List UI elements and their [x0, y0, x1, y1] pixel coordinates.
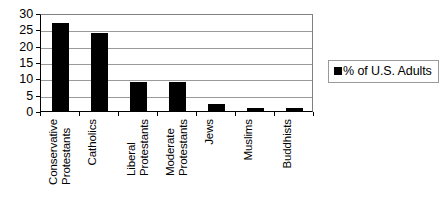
- y-axis-tick-label: 0: [26, 106, 33, 119]
- x-axis-tick-mark: [196, 112, 197, 116]
- x-axis-tick-mark: [313, 112, 314, 116]
- bar-chart: 051015202530 Conservative ProtestantsCat…: [0, 0, 446, 201]
- y-axis-tick-label: 30: [19, 8, 33, 21]
- x-axis-category-label: Jews: [203, 119, 216, 145]
- bar: [208, 104, 225, 111]
- x-axis-tick-mark: [79, 112, 80, 116]
- x-axis-category-label: Buddhists: [281, 119, 294, 169]
- x-axis-category-label: Catholics: [86, 119, 99, 165]
- bar: [130, 82, 147, 111]
- bar: [286, 108, 303, 111]
- x-axis-category-label: Moderate Protestants: [164, 119, 189, 176]
- x-axis-category-label: Liberal Protestants: [125, 119, 150, 176]
- legend: % of U.S. Adults: [328, 60, 439, 83]
- x-axis-tick-mark: [118, 112, 119, 116]
- bar: [52, 23, 69, 111]
- bar: [169, 82, 186, 111]
- y-axis: 051015202530: [0, 0, 40, 112]
- x-axis-category-label: Muslims: [242, 119, 255, 160]
- y-axis-tick-label: 25: [19, 24, 33, 37]
- y-axis-tick-label: 10: [19, 73, 33, 86]
- bar: [91, 33, 108, 111]
- bars-group: [41, 15, 312, 111]
- x-axis-tick-mark: [235, 112, 236, 116]
- x-axis: Conservative ProtestantsCatholicsLiberal…: [40, 112, 313, 201]
- y-axis-tick-label: 15: [19, 57, 33, 70]
- x-axis-category-label: Conservative Protestants: [47, 119, 72, 185]
- x-axis-tick-mark: [40, 112, 41, 116]
- x-axis-tick-mark: [274, 112, 275, 116]
- bar: [247, 108, 264, 111]
- y-axis-tick-label: 5: [26, 89, 33, 102]
- y-axis-tick-label: 20: [19, 40, 33, 53]
- x-axis-tick-mark: [157, 112, 158, 116]
- legend-item-label: % of U.S. Adults: [343, 65, 432, 78]
- legend-square-marker-icon: [334, 67, 342, 75]
- plot-area: [40, 14, 313, 112]
